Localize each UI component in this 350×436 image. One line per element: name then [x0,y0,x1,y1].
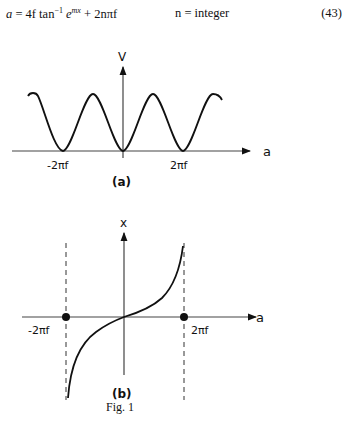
panel-a: V a -2πf 2πf (a) [12,50,271,189]
figure-1: V a -2πf 2πf (a) x a -2πf 2πf (b) [0,0,350,436]
panel-b-tick-left: -2πf [28,324,51,337]
panel-a-y-label: V [118,50,127,64]
panel-b-label: (b) [112,387,132,401]
panel-a-tick-left: -2πf [47,159,70,172]
panel-a-potential-curve [28,93,222,151]
panel-b-y-label: x [120,216,127,230]
panel-b-point-right [180,313,188,321]
panel-a-label: (a) [112,175,131,189]
panel-a-tick-right: 2πf [170,159,189,172]
figure-caption: Fig. 1 [0,400,240,415]
panel-b: x a -2πf 2πf (b) [22,216,264,401]
panel-a-x-label: a [263,144,271,159]
panel-b-x-label: a [256,310,264,325]
panel-b-tick-right: 2πf [191,324,210,337]
panel-b-point-left [62,313,70,321]
panel-b-x-curve [68,246,183,398]
